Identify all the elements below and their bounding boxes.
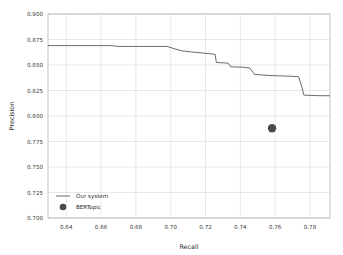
y-tick-label-4: 0.800 xyxy=(27,113,43,119)
y-tick-label-8: 0.900 xyxy=(27,11,43,17)
precision-recall-chart: 0.640.660.680.700.720.740.760.78 0.7000.… xyxy=(0,0,343,255)
x-tick-label-7: 0.78 xyxy=(304,224,317,230)
y-tick-label-7: 0.875 xyxy=(27,37,43,43)
legend-marker-swatch xyxy=(60,204,67,211)
x-tick-label-5: 0.74 xyxy=(234,224,247,230)
x-tick-label-4: 0.72 xyxy=(199,224,211,230)
x-tick-label-3: 0.70 xyxy=(164,224,177,230)
y-tick-label-6: 0.850 xyxy=(27,62,43,68)
y-tick-label-0: 0.700 xyxy=(27,215,43,221)
x-tick-label-2: 0.68 xyxy=(130,224,143,230)
legend-label-1: BERTopic xyxy=(76,204,101,211)
series-marker-1-0 xyxy=(268,124,276,132)
y-axis-title: Precision xyxy=(8,102,16,131)
y-tick-label-2: 0.750 xyxy=(27,164,43,170)
chart-canvas: 0.640.660.680.700.720.740.760.78 0.7000.… xyxy=(0,0,343,255)
chart-background xyxy=(0,0,343,255)
legend-label-0: Our system xyxy=(76,193,108,200)
x-axis-title: Recall xyxy=(179,243,198,251)
x-tick-label-0: 0.64 xyxy=(60,224,73,230)
y-tick-label-3: 0.775 xyxy=(27,139,43,145)
x-tick-label-1: 0.66 xyxy=(95,224,108,230)
y-tick-label-1: 0.725 xyxy=(27,190,43,196)
x-tick-label-6: 0.76 xyxy=(269,224,282,230)
y-axis-tick-labels: 0.7000.7250.7500.7750.8000.8250.8500.875… xyxy=(27,11,43,221)
y-tick-label-5: 0.825 xyxy=(27,88,43,94)
